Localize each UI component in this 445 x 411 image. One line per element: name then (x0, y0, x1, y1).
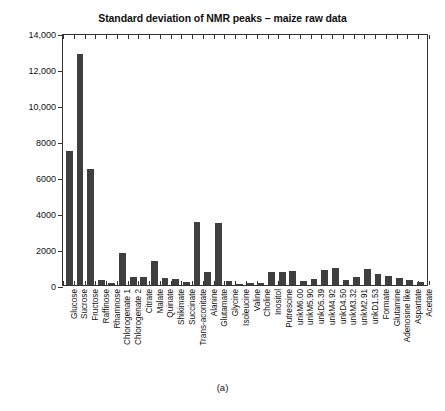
bar (130, 277, 137, 285)
bar-slot (96, 35, 107, 285)
bar-slot (170, 35, 181, 285)
bar (226, 281, 233, 286)
x-axis-tick-label: unkD1.53 (372, 289, 380, 324)
y-axis-tick-label: 6000 (36, 174, 56, 184)
bar-slot (234, 35, 245, 285)
bar-slot (128, 35, 139, 285)
bar (172, 279, 179, 285)
bar-slot (160, 35, 171, 285)
bar-slot (394, 35, 405, 285)
bar-slot (85, 35, 96, 285)
bar (417, 282, 424, 285)
bar-slot (256, 35, 267, 285)
bar-slot (117, 35, 128, 285)
bar (247, 283, 254, 285)
x-axis-tick-label: Aspartate (415, 289, 423, 324)
bar-slot (75, 35, 86, 285)
y-axis-tick (58, 287, 63, 288)
bar-slot (351, 35, 362, 285)
x-axis-tick-label: unkD4.50 (340, 289, 348, 324)
bar-slot (319, 35, 330, 285)
bar (77, 54, 84, 285)
bar (385, 276, 392, 285)
bar (183, 282, 190, 285)
x-axis-tick-label: Chlorogenate 1 (124, 289, 132, 345)
x-axis-tick-label: Malate (157, 289, 165, 314)
bar-slot (415, 35, 426, 285)
bar (119, 253, 126, 285)
bar-slot (341, 35, 352, 285)
bar (343, 280, 350, 285)
bar-slot (224, 35, 235, 285)
bar-series (63, 35, 427, 285)
x-axis-tick-label: Chlorogenate 2 (135, 289, 143, 345)
x-axis-tick-label: Fructose (92, 289, 100, 321)
plot-area: 0200040006000800010,00012,00014,000 (62, 34, 428, 286)
x-axis-tick-label: Acetate (426, 289, 434, 317)
y-axis-tick-label: 12,000 (28, 66, 56, 76)
x-axis-tick-label: unkM6.00 (297, 289, 305, 325)
bar-slot (373, 35, 384, 285)
x-axis-tick-label: Citrate (146, 289, 154, 313)
x-axis-tick-label: Rhamnose (114, 289, 122, 329)
x-axis-tick-label: unkM3.32 (350, 289, 358, 325)
bar-slot (298, 35, 309, 285)
x-axis-tick-label: Formate (383, 289, 391, 319)
y-axis-tick-label: 8000 (36, 138, 56, 148)
bar (289, 271, 296, 285)
bar (87, 169, 94, 285)
bar (353, 277, 360, 285)
y-axis-tick-label: 14,000 (28, 30, 56, 40)
bar (140, 277, 147, 285)
x-axis-tick-label: unkD5.39 (318, 289, 326, 324)
x-axis-labels: GlucoseSucroseFructoseRaffinoseRhamnoseC… (62, 289, 428, 375)
x-axis-tick-label: unkM4.92 (329, 289, 337, 325)
x-axis-tick-label: Adenosine like (404, 289, 412, 342)
x-axis-tick-label: unkM5.90 (307, 289, 315, 325)
bar (268, 272, 275, 285)
bar (236, 284, 243, 285)
bar (375, 274, 382, 285)
bar (396, 278, 403, 285)
bar-slot (181, 35, 192, 285)
bar-slot (245, 35, 256, 285)
x-axis-tick-label: Glycine (232, 289, 240, 316)
x-axis-tick-label: Isoleucine (243, 289, 251, 326)
x-axis-tick-label: Raffinose (103, 289, 111, 323)
bar-slot (138, 35, 149, 285)
bar-slot (362, 35, 373, 285)
x-axis-tick-label: Valine (254, 289, 262, 311)
bar (321, 270, 328, 285)
y-axis-tick-label: 4000 (36, 210, 56, 220)
bar (279, 272, 286, 286)
bar (300, 281, 307, 286)
bar (162, 278, 169, 285)
x-axis-tick-label: unkM2.91 (361, 289, 369, 325)
x-axis-tick-label: Glutamate (221, 289, 229, 327)
bar-slot (64, 35, 75, 285)
chart-title: Standard deviation of NMR peaks – maize … (0, 12, 445, 24)
bar (215, 223, 222, 285)
x-axis-tick-top (429, 35, 430, 39)
x-axis-tick-label: Alanine (211, 289, 219, 316)
bar (257, 283, 264, 285)
x-axis-tick-label: Glucose (71, 289, 79, 319)
figure-panel: Standard deviation of NMR peaks – maize … (0, 0, 445, 411)
bar-slot (192, 35, 203, 285)
x-axis-tick-label: Succinate (189, 289, 197, 325)
bar-slot (213, 35, 224, 285)
bar (151, 261, 158, 285)
bar-slot (330, 35, 341, 285)
bar (108, 283, 115, 285)
bar-slot (202, 35, 213, 285)
bar-slot (383, 35, 394, 285)
bar (98, 280, 105, 285)
x-axis-tick-label: Sucrose (81, 289, 89, 319)
bar-slot (309, 35, 320, 285)
x-axis-tick-label: Choline (264, 289, 272, 317)
bar-slot (405, 35, 416, 285)
bar (364, 269, 371, 285)
y-axis-tick-label: 10,000 (28, 102, 56, 112)
bar (311, 279, 318, 285)
bar (194, 222, 201, 285)
